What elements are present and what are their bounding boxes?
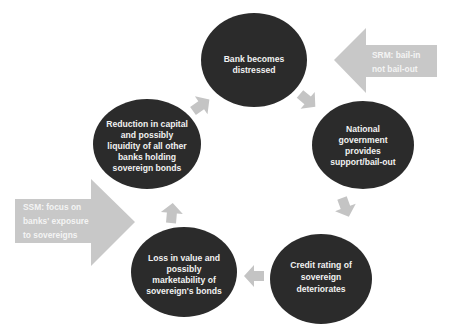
- ssm-label-line-3: to sovereigns: [23, 230, 78, 240]
- ssm-label-line-2: banks' exposure: [23, 216, 89, 226]
- arrow-n1-n2-icon: [293, 86, 322, 116]
- svg-text:deteriorates: deteriorates: [296, 284, 345, 294]
- srm-arrow: SRM: bail-in not bail-out: [334, 28, 437, 93]
- arrow-n5-n1-icon: [187, 91, 216, 120]
- cycle-diagram: SRM: bail-in not bail-out SSM: focus on …: [0, 0, 451, 332]
- ssm-label-line-1: SSM: focus on: [23, 202, 81, 212]
- svg-text:distressed: distressed: [233, 65, 276, 75]
- node-bank-distressed: Bank becomes distressed: [201, 13, 307, 107]
- node-loss-in-value: Loss in value and possibly marketability…: [131, 227, 237, 317]
- svg-text:support/bail-out: support/bail-out: [330, 157, 396, 167]
- svg-text:liquidity of all other: liquidity of all other: [107, 141, 187, 151]
- svg-text:provides: provides: [345, 146, 381, 156]
- node-reduction-capital: Reduction in capital and possibly liquid…: [93, 99, 201, 189]
- srm-label-line-2: not bail-out: [372, 64, 418, 74]
- svg-text:government: government: [338, 135, 387, 145]
- svg-text:Loss in value and: Loss in value and: [148, 253, 220, 263]
- svg-text:Credit rating of: Credit rating of: [290, 260, 352, 270]
- node-credit-rating: Credit rating of sovereign deteriorates: [270, 234, 372, 324]
- svg-text:sovereign's bonds: sovereign's bonds: [146, 286, 222, 296]
- svg-text:marketability of: marketability of: [152, 275, 216, 285]
- svg-text:sovereign: sovereign: [301, 272, 342, 282]
- svg-text:and possibly: and possibly: [121, 130, 174, 140]
- svg-text:Bank becomes: Bank becomes: [224, 54, 285, 64]
- arrow-n4-n5-icon: [160, 202, 184, 224]
- svg-text:possibly: possibly: [167, 264, 202, 274]
- svg-text:banks holding: banks holding: [118, 152, 176, 162]
- ssm-arrow: SSM: focus on banks' exposure to soverei…: [15, 179, 135, 266]
- arrow-n3-n4-icon: [244, 265, 264, 287]
- svg-text:Reduction in capital: Reduction in capital: [106, 119, 188, 129]
- node-government-support: National government provides support/bai…: [312, 101, 414, 189]
- svg-text:sovereign bonds: sovereign bonds: [113, 163, 182, 173]
- srm-label-line-1: SRM: bail-in: [372, 50, 420, 60]
- svg-text:National: National: [346, 124, 380, 134]
- arrow-n2-n3-icon: [332, 194, 360, 220]
